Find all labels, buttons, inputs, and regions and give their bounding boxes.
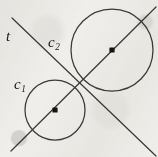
center-dot-c1 — [52, 107, 57, 112]
label-c1-text: c — [14, 76, 21, 92]
tangent-line-t — [12, 18, 156, 156]
label-c1: c1 — [14, 77, 26, 94]
label-c2-subscript: 2 — [55, 42, 60, 52]
center-dot-c2 — [109, 47, 114, 52]
label-c2: c2 — [48, 35, 60, 52]
geometry-figure: t c2 c1 — [0, 0, 158, 157]
label-t-text: t — [6, 28, 10, 44]
label-c1-subscript: 1 — [21, 84, 26, 94]
label-t: t — [6, 29, 10, 44]
label-c2-text: c — [48, 34, 55, 50]
